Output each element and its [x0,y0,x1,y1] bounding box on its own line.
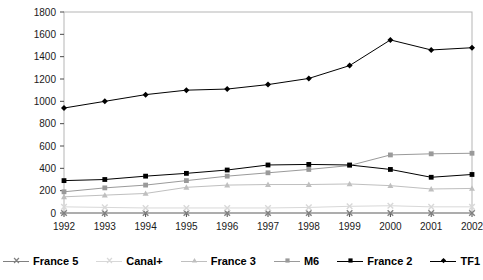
line-chart: 020040060080010001200140016001800 199219… [0,0,483,280]
x-tick-label: 1998 [298,221,321,232]
data-point-square [184,171,189,176]
data-point-square [62,178,67,183]
data-point-square [388,167,393,172]
x-tick-label: 1997 [257,221,280,232]
y-tick-label: 1800 [34,7,57,18]
data-point-square [306,167,311,172]
x-tick-label: 1999 [338,221,361,232]
data-point-square [470,172,475,177]
data-point-square [429,175,434,180]
x-tick-label: 1994 [134,221,157,232]
y-tick-label: 1200 [34,74,57,85]
y-tick-label: 1400 [34,51,57,62]
x-tick-label: 2000 [379,221,402,232]
legend-marker-x-icon [3,255,29,267]
x-tick-label: 2002 [461,221,483,232]
legend-marker-diamond-icon [430,255,456,267]
legend-marker-triangle-icon [181,255,207,267]
data-point-square [266,170,271,175]
data-point-square [143,183,148,188]
y-tick-label: 0 [50,208,56,219]
data-point-square [62,189,67,194]
data-point-square [347,163,352,168]
legend-item-france-5[interactable]: France 5 [3,255,78,267]
x-tick-label: 1992 [53,221,76,232]
legend-label: TF1 [460,255,480,267]
data-point-square [470,151,475,156]
y-tick-label: 200 [39,185,56,196]
chart-background [0,0,483,240]
legend-label: France 5 [33,255,78,267]
data-point-square [349,258,353,262]
legend-label: France 2 [367,255,412,267]
data-point-square [388,153,393,158]
y-tick-label: 1000 [34,96,57,107]
data-point-square [102,177,107,182]
data-point-square [184,178,189,183]
legend-item-m6[interactable]: M6 [274,255,319,267]
data-point-square [225,168,230,173]
chart-canvas: 020040060080010001200140016001800 199219… [0,0,483,240]
legend-item-canal[interactable]: Canal+ [96,255,162,267]
legend-item-tf1[interactable]: TF1 [430,255,480,267]
legend-label: France 3 [211,255,256,267]
data-point-diamond [441,258,446,263]
legend-marker-x-icon [96,255,122,267]
x-tick-label: 1995 [175,221,198,232]
data-point-square [429,151,434,156]
legend-label: M6 [304,255,319,267]
y-tick-label: 800 [39,118,56,129]
legend-marker-square-icon [337,255,363,267]
data-point-x [107,258,112,263]
legend-label: Canal+ [126,255,162,267]
y-tick-label: 1600 [34,29,57,40]
legend-item-france-3[interactable]: France 3 [181,255,256,267]
data-point-square [266,163,271,168]
chart-legend: France 5Canal+France 3M6France 2TF1 [0,246,483,276]
data-point-x [14,258,19,263]
data-point-triangle [192,258,197,263]
y-tick-label: 600 [39,141,56,152]
plot-area: 020040060080010001200140016001800 199219… [0,0,483,240]
data-point-square [102,185,107,190]
x-tick-label: 1993 [94,221,117,232]
data-point-square [143,174,148,179]
legend-item-france-2[interactable]: France 2 [337,255,412,267]
y-tick-label: 400 [39,163,56,174]
data-point-square [306,162,311,167]
data-point-square [285,258,289,262]
x-tick-label: 2001 [420,221,443,232]
legend-marker-square-icon [274,255,300,267]
x-tick-label: 1996 [216,221,239,232]
data-point-square [225,174,230,179]
